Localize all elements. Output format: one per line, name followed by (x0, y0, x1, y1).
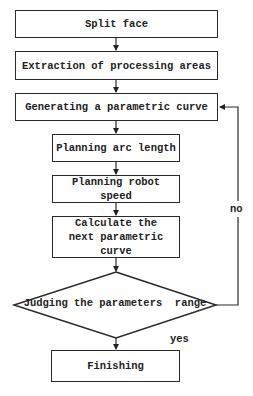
node-plan-arc: Planning arc length (52, 134, 180, 162)
decision-label: Judging the parameters range (14, 297, 216, 309)
node-label: Extraction of processing areas (22, 59, 211, 73)
node-label: Planning robot speed (53, 175, 179, 203)
node-generate-curve: Generating a parametric curve (15, 93, 218, 121)
node-label: Split face (85, 17, 148, 31)
node-calc-next: Calculate the next parametric curve (52, 216, 180, 258)
node-extraction: Extraction of processing areas (15, 51, 218, 80)
node-plan-speed: Planning robot speed (52, 175, 180, 203)
node-split-face: Split face (15, 10, 218, 38)
edge-label-no: no (230, 201, 243, 217)
node-label: Finishing (87, 359, 144, 373)
edge-label-yes: yes (170, 333, 189, 345)
node-label: Generating a parametric curve (25, 100, 208, 114)
node-label: Planning arc length (56, 141, 176, 155)
node-label: Calculate the next parametric curve (61, 216, 171, 258)
node-finishing: Finishing (51, 350, 180, 382)
